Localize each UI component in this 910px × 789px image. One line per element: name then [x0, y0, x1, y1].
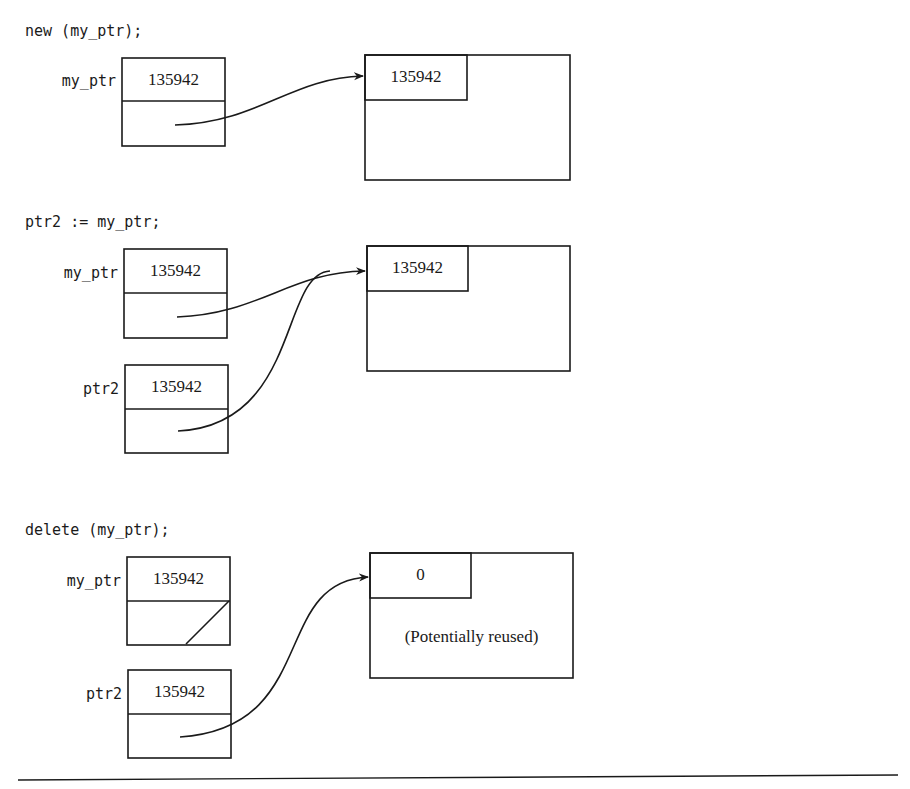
pointer-value: 135942	[122, 70, 225, 90]
pointer-label-my_ptr: my_ptr	[20, 572, 121, 590]
pointer-value: 135942	[128, 682, 231, 702]
pointer-label-ptr2: ptr2	[20, 380, 119, 398]
pointer-value: 135942	[124, 261, 227, 281]
heap-header-value: 135942	[365, 67, 467, 87]
heap-body-text: (Potentially reused)	[370, 627, 573, 647]
pointer-label-ptr2: ptr2	[20, 685, 122, 703]
statement-new: new (my_ptr);	[25, 22, 142, 40]
pointer-label-my_ptr: my_ptr	[20, 72, 116, 90]
pointer-value: 135942	[127, 569, 230, 589]
bottom-rule	[18, 775, 898, 780]
pointer-label-my_ptr: my_ptr	[20, 264, 118, 282]
pointer-value: 135942	[125, 377, 228, 397]
null-slash	[186, 601, 229, 644]
statement-delete: delete (my_ptr);	[25, 521, 170, 539]
heap-header-value: 0	[370, 565, 471, 585]
heap-header-value: 135942	[367, 258, 468, 278]
statement-assign: ptr2 := my_ptr;	[25, 213, 160, 231]
